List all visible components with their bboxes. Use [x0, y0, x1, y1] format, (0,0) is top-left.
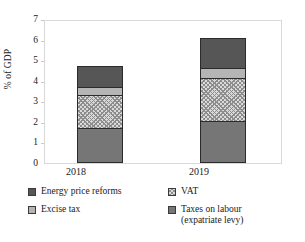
y-axis-tick-4: 4 [24, 77, 38, 87]
bar-segment-labour-2019[interactable] [200, 121, 246, 163]
bar-segment-energy-2019[interactable] [200, 38, 246, 69]
chart-legend: Energy price reforms VAT Excise tax Taxe… [28, 186, 300, 226]
y-axis-tick-2: 2 [24, 118, 38, 128]
legend-swatch-energy-icon [28, 188, 36, 196]
y-axis-title: % of GDP [3, 24, 13, 114]
x-axis-label-2018: 2018 [36, 166, 116, 177]
legend-swatch-excise-icon [28, 206, 36, 214]
y-axis-tick-1: 1 [24, 139, 38, 149]
bar-segment-vat-2019[interactable] [200, 78, 246, 121]
y-axis-tick-3: 3 [24, 98, 38, 108]
bar-segment-labour-2018[interactable] [77, 128, 123, 163]
legend-item-taxes-on-labour[interactable]: Taxes on labour (expatriate levy) [168, 204, 300, 226]
bar-segment-energy-2018[interactable] [77, 66, 123, 87]
legend-item-vat[interactable]: VAT [168, 186, 300, 197]
bar-segment-excise-2019[interactable] [200, 68, 246, 77]
y-axis-tick-6: 6 [24, 36, 38, 46]
plot-area [44, 20, 282, 164]
stacked-bar-chart: % of GDP 76543210 2018 2019 Energy price… [0, 0, 305, 242]
bar-segment-vat-2018[interactable] [77, 95, 123, 128]
x-axis-label-2019: 2019 [159, 166, 239, 177]
y-axis-tick-5: 5 [24, 56, 38, 66]
legend-swatch-labour-icon [168, 206, 176, 214]
legend-label-energy: Energy price reforms [41, 186, 122, 197]
legend-label-excise: Excise tax [41, 204, 80, 215]
legend-item-excise-tax[interactable]: Excise tax [28, 204, 168, 226]
legend-swatch-vat-icon [168, 188, 176, 196]
legend-label-labour: Taxes on labour (expatriate levy) [181, 204, 244, 226]
bar-segment-excise-2018[interactable] [77, 87, 123, 95]
y-axis-tick-7: 7 [24, 15, 38, 25]
legend-item-energy-price-reforms[interactable]: Energy price reforms [28, 186, 168, 197]
legend-label-vat: VAT [181, 186, 198, 197]
